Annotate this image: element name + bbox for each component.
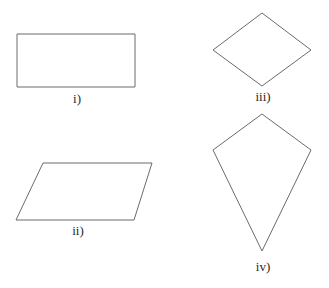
rectangle-label: i) bbox=[73, 92, 81, 105]
kite-shape bbox=[213, 114, 311, 251]
quadrilaterals-diagram bbox=[0, 0, 329, 288]
rectangle-shape bbox=[17, 34, 135, 87]
kite-label: iv) bbox=[256, 260, 270, 273]
rhombus-label: iii) bbox=[255, 90, 270, 103]
rhombus-shape bbox=[213, 13, 311, 86]
parallelogram-shape bbox=[16, 163, 152, 220]
parallelogram-label: ii) bbox=[72, 224, 84, 237]
